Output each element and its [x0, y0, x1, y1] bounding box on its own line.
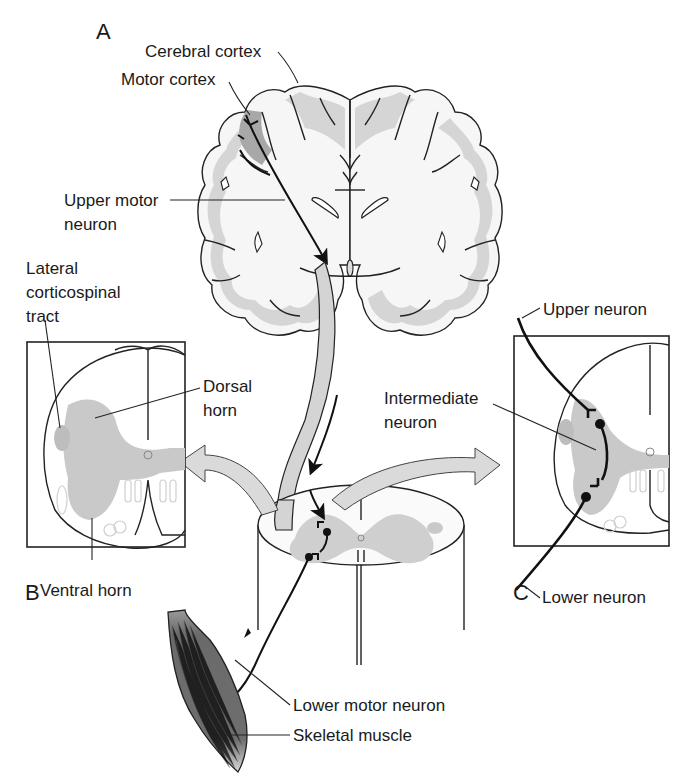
label-motor-cortex: Motor cortex [121, 70, 216, 89]
label-lower-motor-neuron: Lower motor neuron [293, 696, 445, 715]
panel-label-c: C [513, 580, 529, 605]
label-upper-motor-neuron-1: Upper motor [64, 191, 159, 210]
label-intermediate-neuron-2: neuron [384, 413, 437, 432]
brain-coronal-section [198, 86, 502, 335]
panel-label-b: B [25, 580, 40, 605]
label-dorsal-horn-2: horn [203, 401, 237, 420]
label-dorsal-horn-1: Dorsal [203, 377, 252, 396]
label-intermediate-neuron-1: Intermediate [384, 389, 479, 408]
panel-label-a: A [96, 19, 111, 44]
arrow-to-panel-b [180, 445, 278, 515]
label-upper-neuron: Upper neuron [543, 300, 647, 319]
motor-pathway-diagram: A B C Cerebral cortex Motor cortex Upper… [0, 0, 692, 784]
label-lower-neuron: Lower neuron [542, 588, 646, 607]
label-lateral-corticospinal-3: tract [26, 307, 59, 326]
label-lateral-corticospinal-1: Lateral [26, 259, 78, 278]
label-cerebral-cortex: Cerebral cortex [145, 42, 262, 61]
label-skeletal-muscle: Skeletal muscle [293, 726, 412, 745]
label-upper-motor-neuron-2: neuron [64, 215, 117, 234]
panel-b-cord-section [27, 342, 185, 548]
spinal-cord-center [258, 485, 464, 665]
label-ventral-horn: Ventral horn [40, 581, 132, 600]
label-lateral-corticospinal-2: corticospinal [26, 283, 121, 302]
panel-c-cord-section [514, 318, 669, 590]
